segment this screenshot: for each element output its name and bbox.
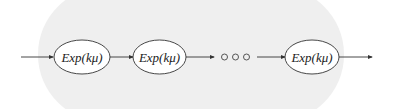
stage-node-2: Exp(kμ) [133,40,186,74]
ellipsis-dot-2 [233,54,239,60]
stage-node-1-label: Exp(kμ) [60,50,102,65]
ellipsis-dot-3 [244,54,250,60]
stage-node-n: Exp(kμ) [285,40,339,74]
ellipsis-marker [222,54,250,60]
stage-node-1: Exp(kμ) [54,40,110,74]
diagram-svg: Exp(kμ) Exp(kμ) Exp(kμ) [0,0,393,109]
stage-node-2-label: Exp(kμ) [138,50,180,65]
stage-node-n-label: Exp(kμ) [290,50,332,65]
ellipsis-dot-1 [222,54,228,60]
erlang-stage-diagram: Exp(kμ) Exp(kμ) Exp(kμ) [0,0,393,109]
